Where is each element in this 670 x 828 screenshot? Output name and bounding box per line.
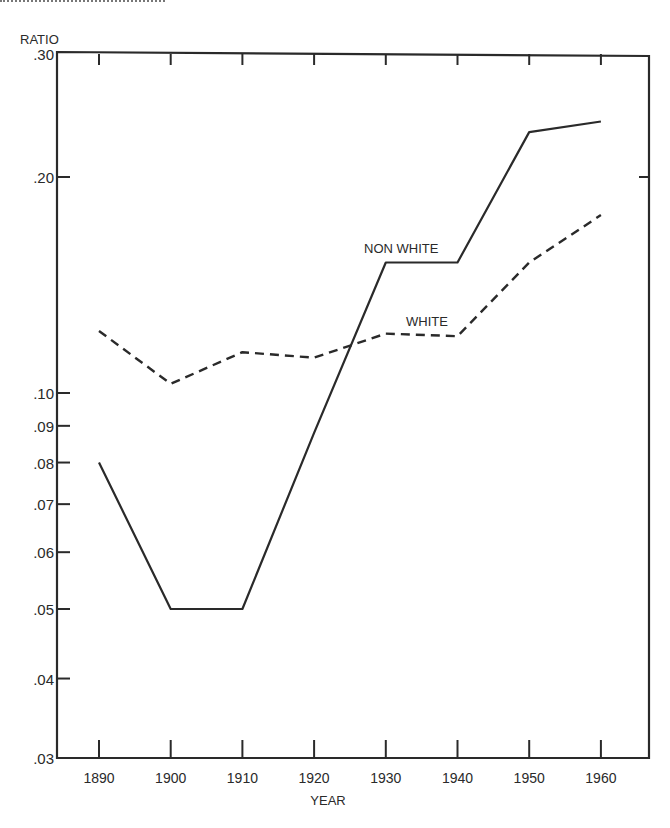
y-tick-label: .09 <box>33 418 54 435</box>
y-tick-label: .04 <box>33 671 54 688</box>
x-tick-label: 1890 <box>83 770 114 786</box>
y-tick-label: .20 <box>33 169 54 186</box>
y-axis: .30.20.10.09.08.07.06.05.04.03 <box>33 46 649 767</box>
y-tick-label: .03 <box>33 750 54 767</box>
plot-border <box>57 52 649 758</box>
x-axis-label: YEAR <box>310 793 345 808</box>
nonwhite-series-line <box>99 122 601 610</box>
x-tick-label: 1960 <box>585 770 616 786</box>
x-tick-label: 1930 <box>370 770 401 786</box>
y-tick-label: .07 <box>33 496 54 513</box>
x-axis: 18901900191019201930194019501960 <box>83 54 616 786</box>
line-chart: .30.20.10.09.08.07.06.05.04.03 189019001… <box>0 0 670 828</box>
white-label: WHITE <box>406 314 448 329</box>
nonwhite-label: NON WHITE <box>364 241 439 256</box>
x-tick-label: 1920 <box>299 770 330 786</box>
y-tick-label: .10 <box>33 385 54 402</box>
x-tick-label: 1940 <box>442 770 473 786</box>
y-tick-label: .06 <box>33 544 54 561</box>
y-axis-label: RATIO <box>20 32 59 47</box>
series-lines <box>99 122 601 610</box>
y-tick-label: .05 <box>33 601 54 618</box>
white-series-line <box>99 215 601 384</box>
y-tick-label: .08 <box>33 455 54 472</box>
x-tick-label: 1910 <box>227 770 258 786</box>
y-tick-label: .30 <box>33 46 54 63</box>
plot-frame <box>57 52 649 758</box>
x-tick-label: 1900 <box>155 770 186 786</box>
x-tick-label: 1950 <box>514 770 545 786</box>
